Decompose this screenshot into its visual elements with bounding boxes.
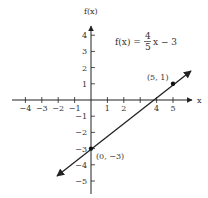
y-tick-label: 4 — [82, 31, 87, 40]
x-axis-label: x — [197, 96, 202, 105]
x-tick-label: 4 — [154, 104, 159, 113]
y-tick-label: −4 — [75, 161, 87, 170]
function-graph: −4−3−2−11245 4321−1−2−3−4−5 x f(x) f(x) … — [0, 0, 208, 198]
equation-denominator: 5 — [145, 42, 151, 52]
x-tick-label: 1 — [105, 104, 110, 113]
x-tick-label: −3 — [36, 104, 48, 113]
y-tick-label: −5 — [75, 177, 87, 186]
y-tick-label: −1 — [75, 112, 87, 121]
equation-lhs: f(x) = — [115, 37, 141, 47]
point-label: (5, 1) — [147, 73, 169, 82]
equation-rhs: x − 3 — [153, 37, 177, 47]
x-tick-label: −4 — [20, 104, 32, 113]
x-ticks: −4−3−2−11245 — [20, 97, 176, 113]
y-tick-label: 2 — [82, 64, 87, 73]
point-label: (0, −3) — [96, 152, 124, 161]
y-axis-label: f(x) — [84, 7, 98, 16]
x-tick-label: 5 — [170, 104, 175, 113]
equation-numerator: 4 — [145, 31, 151, 41]
point-marker — [89, 146, 93, 150]
y-tick-label: −2 — [75, 128, 87, 137]
y-tick-label: 1 — [82, 80, 87, 89]
y-tick-label: 3 — [82, 47, 87, 56]
equation-label: f(x) = 4 5 x − 3 — [115, 31, 177, 52]
x-tick-label: −2 — [52, 104, 64, 113]
y-tick-label: −3 — [75, 145, 87, 154]
x-tick-label: 2 — [121, 104, 126, 113]
point-marker — [171, 82, 175, 86]
